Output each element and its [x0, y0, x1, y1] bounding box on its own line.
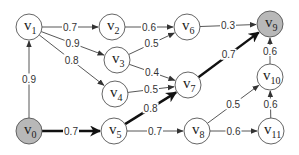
edge-weight-label: 0.8	[65, 55, 79, 66]
edge-weight-label: 0.5	[144, 84, 158, 95]
node-v9: v9	[257, 11, 283, 37]
edge-weight-label: 0.7	[222, 49, 236, 60]
edge-weight-label: 0.7	[63, 22, 77, 33]
graph-diagram: 0.90.70.90.80.60.50.40.50.30.70.80.70.70…	[0, 0, 299, 155]
node-v10: v10	[257, 64, 283, 90]
node-v2: v2	[99, 14, 125, 40]
node-v1: v1	[16, 14, 42, 40]
weights-layer: 0.90.70.90.80.60.50.40.50.30.70.80.70.70…	[21, 20, 279, 137]
edge-weight-label: 0.4	[145, 67, 159, 78]
edge-weight-label: 0.6	[142, 22, 156, 33]
node-v11: v11	[258, 118, 284, 144]
node-v3: v3	[104, 47, 130, 73]
edge-weight-label: 0.6	[264, 99, 278, 110]
edge-weight-label: 0.6	[227, 126, 241, 137]
node-v6: v6	[174, 14, 200, 40]
edge-weight-label: 0.9	[22, 74, 36, 85]
node-v8: v8	[184, 118, 210, 144]
node-v0: v0	[16, 118, 42, 144]
edge-weight-label: 0.7	[64, 126, 78, 137]
edge-weight-label: 0.7	[148, 126, 162, 137]
node-v5: v5	[101, 118, 127, 144]
edge-weight-label: 0.9	[66, 38, 80, 49]
edge-weight-label: 0.8	[144, 103, 158, 114]
edge-weight-label: 0.5	[145, 38, 159, 49]
node-v7: v7	[175, 72, 201, 98]
edge-weight-label: 0.6	[263, 46, 277, 57]
edge-weight-label: 0.5	[226, 99, 240, 110]
node-v4: v4	[102, 81, 128, 107]
edge-weight-label: 0.3	[221, 20, 235, 31]
